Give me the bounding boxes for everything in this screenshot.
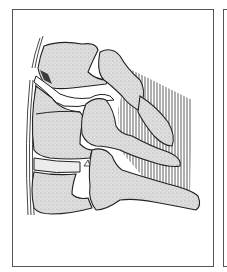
lower-vertebra	[32, 172, 92, 214]
spine-fracture-illustration	[0, 0, 227, 272]
upper-vertebra	[38, 42, 108, 88]
intervertebral-disc	[34, 158, 80, 173]
